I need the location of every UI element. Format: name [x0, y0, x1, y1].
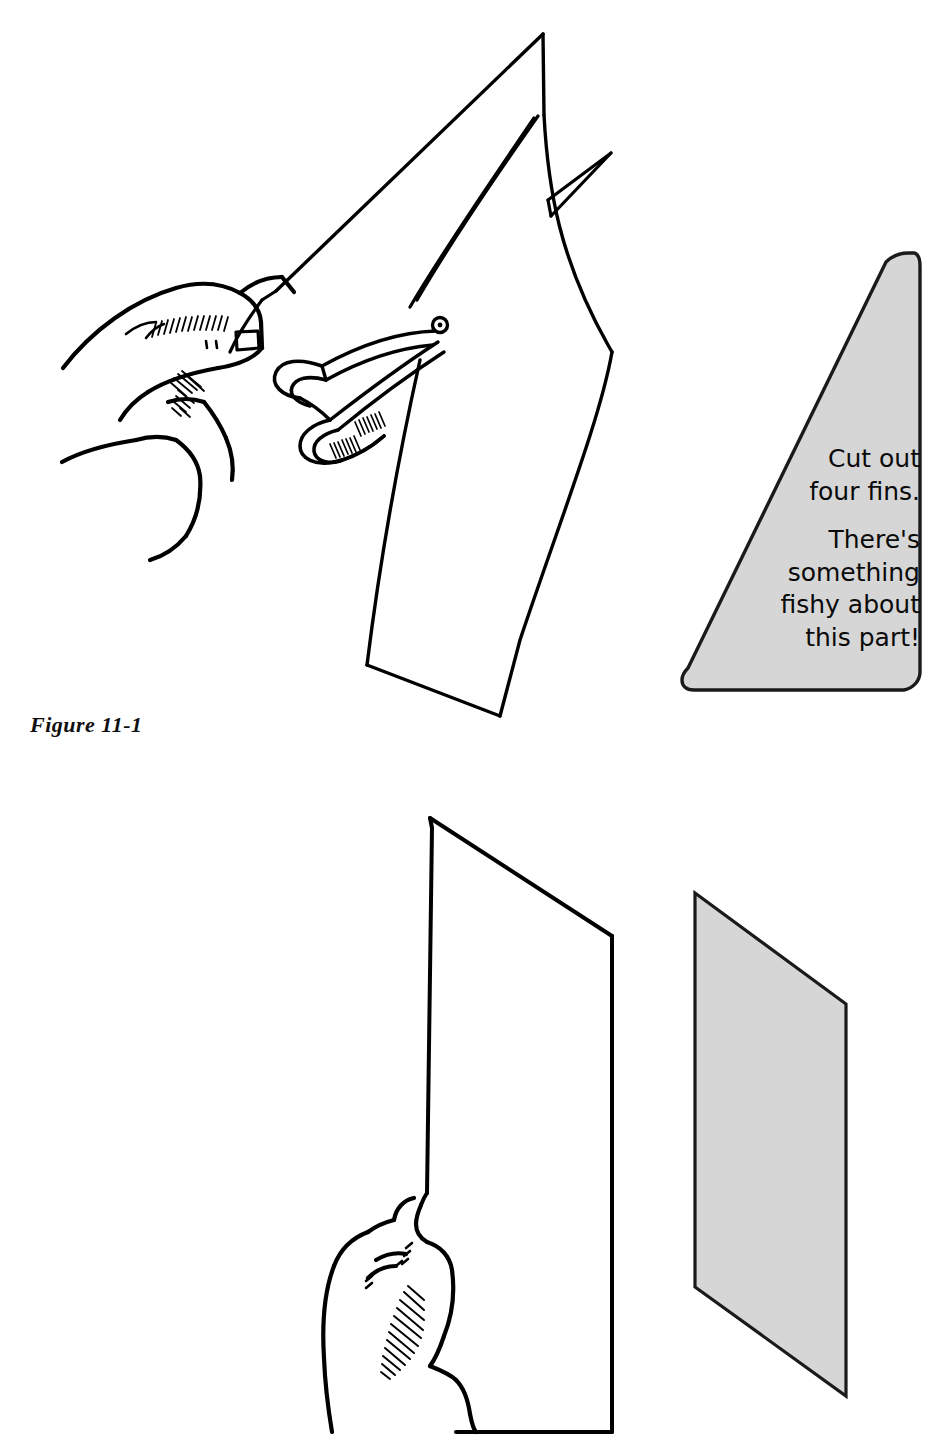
instruction-page: Cut out four fins. There's something fis… — [0, 0, 933, 1444]
figure-11-2-illustration — [0, 780, 933, 1444]
fin-callout-line-6: this part! — [728, 622, 920, 655]
scissor-handle-hatching — [330, 412, 385, 458]
hand-left — [62, 277, 294, 560]
fin-callout-line-5: fishy about — [728, 589, 920, 622]
sheet-callout-shape — [695, 893, 846, 1396]
fin-callout-line-4: something — [728, 557, 920, 590]
scissor-upper-blade — [548, 153, 611, 216]
fin-callout-line-1: Cut out — [728, 443, 920, 476]
fin-callout-line-2: four fins. — [728, 476, 920, 509]
fin-callout-text: Cut out four fins. There's something fis… — [728, 443, 920, 654]
figure-11-1-caption: Figure 11-1 — [30, 712, 142, 738]
scissors — [322, 331, 444, 430]
paper-cut-flap — [230, 116, 538, 352]
fin-callout-line-3: There's — [728, 524, 920, 557]
hand-hatching — [381, 1286, 424, 1379]
finger-hatching-top — [152, 316, 228, 337]
figure-11-1: Cut out four fins. There's something fis… — [0, 0, 933, 780]
hand-holding-sheet — [323, 1198, 476, 1432]
scissor-pivot-screw — [433, 318, 448, 333]
thumb-web-hatching — [170, 371, 204, 417]
cut-fin-sheet-outline — [421, 818, 612, 1432]
paper-sheet-outline — [276, 34, 612, 716]
figure-11-1-illustration — [0, 0, 933, 780]
figure-11-2: Shape the fins to fit the bottle. Figure… — [0, 780, 933, 1444]
